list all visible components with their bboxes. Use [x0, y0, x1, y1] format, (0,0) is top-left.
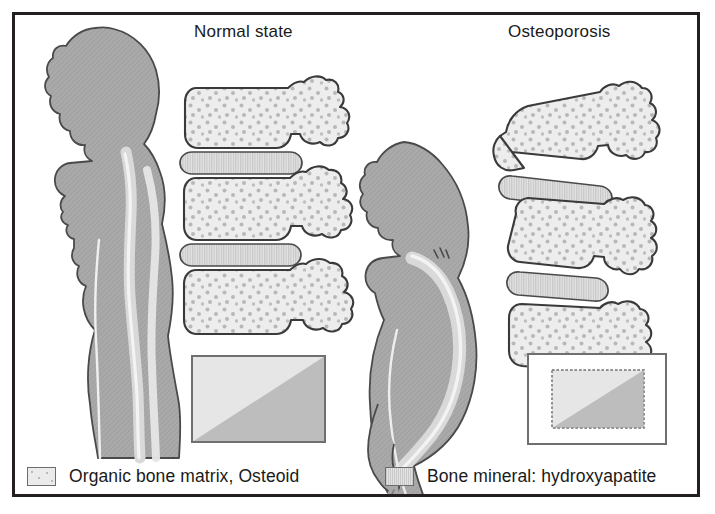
- illustration-frame: [12, 12, 700, 497]
- panel-title-osteoporosis: Osteoporosis: [508, 22, 611, 42]
- figure-root: Normal state Osteoporosis Organic bone m…: [0, 0, 715, 514]
- mineral-swatch-icon: [385, 467, 414, 486]
- legend-label-osteoid: Organic bone matrix, Osteoid: [69, 466, 299, 487]
- legend-item-osteoid: Organic bone matrix, Osteoid: [27, 466, 299, 487]
- panel-title-normal-state: Normal state: [194, 22, 293, 42]
- legend-label-bone-mineral: Bone mineral: hydroxyapatite: [427, 466, 656, 487]
- legend-item-bone-mineral: Bone mineral: hydroxyapatite: [385, 466, 656, 487]
- osteoid-swatch-icon: [27, 467, 56, 486]
